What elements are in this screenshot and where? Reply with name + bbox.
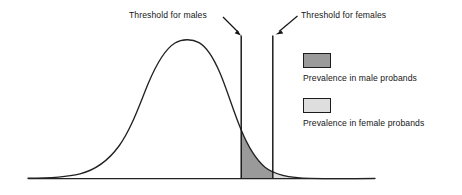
distribution-plot — [0, 0, 462, 195]
legend-swatch-male-prevalence — [303, 53, 331, 68]
threshold-males-label: Threshold for males — [129, 10, 207, 20]
legend-item-female-prevalence: Prevalence in female probands — [303, 98, 331, 113]
threshold-females-arrow-icon — [276, 16, 298, 35]
threshold-males-arrow-icon — [223, 17, 241, 36]
legend-label-male-prevalence: Prevalence in male probands — [303, 73, 417, 83]
threshold-females-label: Threshold for females — [301, 10, 386, 20]
threshold-liability-figure: Threshold for males Threshold for female… — [0, 0, 462, 195]
legend-swatch-female-prevalence — [303, 98, 331, 113]
legend-item-male-prevalence: Prevalence in male probands — [303, 53, 331, 68]
legend-label-female-prevalence: Prevalence in female probands — [303, 118, 424, 128]
